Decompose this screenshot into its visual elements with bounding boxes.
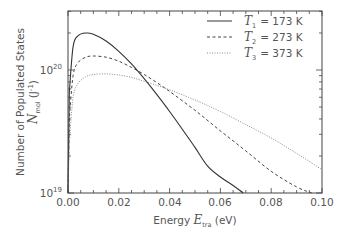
- legend-item-t2: T2= 273 K: [207, 30, 304, 46]
- svg-text:Nmol(J-1): Nmol(J-1): [26, 80, 42, 125]
- curve-t3: [68, 74, 322, 193]
- legend-item-t3: T3= 373 K: [207, 46, 304, 62]
- svg-text:T1= 173 K: T1= 173 K: [244, 14, 304, 30]
- svg-text:T2= 273 K: T2= 273 K: [244, 30, 304, 46]
- x-tick-label: 0.04: [158, 196, 182, 208]
- curve-t2: [68, 56, 312, 193]
- chart: 1019 1020 0.00 0.02 0.04 0.06 0.08 0.10 …: [0, 0, 344, 236]
- svg-text:T3= 373 K: T3= 373 K: [244, 46, 304, 62]
- x-tick-label: 0.10: [310, 196, 333, 208]
- x-tick-label: 0.06: [208, 196, 232, 208]
- legend-item-t1: T1= 173 K: [207, 14, 304, 30]
- y-axis-title: Number of Populated States Nmol(J-1): [14, 28, 42, 176]
- curve-t1: [68, 33, 243, 193]
- x-tick-label: 0.00: [56, 196, 79, 208]
- x-tick-label: 0.08: [259, 196, 282, 208]
- x-axis-title: Energy Etra (eV): [153, 213, 236, 229]
- svg-text:Number of Populated States: Number of Populated States: [14, 28, 26, 176]
- y-tick-label-1e20: 1020: [40, 63, 62, 76]
- x-tick-label: 0.02: [107, 196, 130, 208]
- x-tick-labels: 0.00 0.02 0.04 0.06 0.08 0.10: [56, 196, 333, 208]
- legend: T1= 173 K T2= 273 K T3= 373 K: [207, 14, 304, 62]
